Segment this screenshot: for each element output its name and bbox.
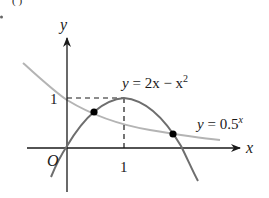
clipped-fragment: ( ) [12, 0, 22, 7]
y-tick-label: 1 [50, 91, 58, 107]
intersection-point-2 [169, 130, 176, 137]
clipped-dot [0, 16, 3, 19]
parabola-label-text: = 2x − x [129, 75, 184, 91]
x-axis-label: x [245, 139, 253, 156]
function-graph: ( ) y x O 1 1 y = 2x − x2 y = 0.5x [0, 0, 269, 198]
parabola-label-sup: 2 [183, 73, 188, 84]
parabola-label: y = 2x − x2 [120, 73, 188, 91]
origin-label: O [47, 152, 59, 169]
y-axis-label: y [58, 16, 68, 34]
intersection-point-1 [90, 108, 97, 115]
exponential-label-text: y = 0.5 [195, 116, 238, 132]
exponential-label-sup: x [237, 114, 243, 125]
x-tick-label: 1 [120, 159, 128, 175]
exponential-label: y = 0.5x [195, 114, 243, 132]
